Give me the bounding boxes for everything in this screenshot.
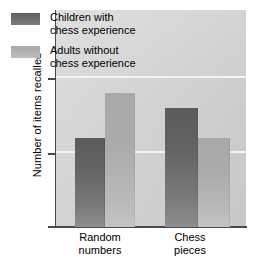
legend-item-children: Children with chess experience <box>11 11 136 36</box>
y-tick-mark-10 <box>48 78 55 80</box>
x-tick-label-chess-pieces-line2: pieces <box>174 244 206 256</box>
legend-label-children: Children with chess experience <box>50 11 136 36</box>
legend: Children with chess experience Adults wi… <box>11 11 136 77</box>
bar-children-random-numbers <box>75 138 105 227</box>
legend-item-adults: Adults without chess experience <box>11 44 136 69</box>
x-tick-label-chess-pieces: Chess pieces <box>155 231 225 257</box>
x-tick-label-random-numbers: Random numbers <box>60 231 140 257</box>
legend-swatch-children-icon <box>11 13 40 25</box>
x-tick-label-chess-pieces-line1: Chess <box>174 231 205 243</box>
legend-swatch-adults-icon <box>11 46 40 58</box>
legend-label-children-line1: Children with <box>50 11 114 23</box>
y-tick-mark-5 <box>48 153 55 155</box>
bar-adults-chess-pieces <box>198 138 230 227</box>
x-tick-label-random-numbers-line1: Random <box>79 231 121 243</box>
x-tick-label-random-numbers-line2: numbers <box>79 244 122 256</box>
legend-label-children-line2: chess experience <box>50 24 136 36</box>
bar-adults-random-numbers <box>105 93 135 227</box>
legend-label-adults-line1: Adults without <box>50 44 118 56</box>
legend-label-adults: Adults without chess experience <box>50 44 136 69</box>
y-tick-mark-0 <box>48 226 55 228</box>
legend-label-adults-line2: chess experience <box>50 57 136 69</box>
bar-children-chess-pieces <box>165 108 198 227</box>
chess-memory-bar-chart: Number of items recalled 0 5 10 Children… <box>0 0 259 262</box>
